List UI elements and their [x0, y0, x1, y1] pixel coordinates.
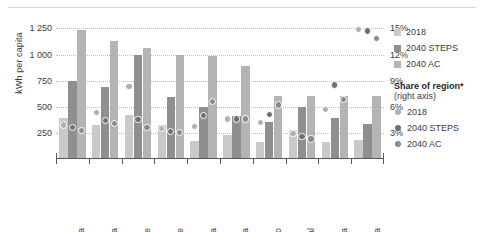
legend-dot-icon	[395, 109, 401, 115]
bar-group	[190, 18, 216, 159]
x-axis-category-label: Senegal	[306, 228, 316, 232]
data-point-dot	[125, 83, 132, 90]
data-point-dot	[102, 117, 109, 124]
legend-swatch-icon	[394, 45, 401, 52]
x-axis-category-label: Mozambique	[142, 228, 152, 232]
legend-item[interactable]: 2040 AC	[394, 136, 484, 152]
plot-area: 1 25015%1 00012%7509%5006%2503%	[56, 18, 384, 159]
data-point-dot	[233, 115, 240, 122]
bar	[232, 116, 240, 159]
legend-dot-icon	[395, 141, 401, 147]
x-axis-category-label: Angola	[109, 228, 119, 232]
legend-item[interactable]: 2018	[394, 24, 484, 40]
bar	[110, 41, 118, 159]
x-axis-category-label: Tanzania	[208, 228, 218, 232]
bar-group	[223, 18, 249, 159]
legend-item-label: 2040 STEPS	[407, 123, 459, 133]
bar	[92, 125, 100, 159]
legend-item-label: 2040 STEPS	[406, 43, 458, 53]
bar	[331, 118, 339, 159]
y-axis-tick-left: 250	[6, 128, 52, 138]
legend-heading: Share of region*	[394, 81, 484, 91]
bar	[77, 30, 85, 160]
data-point-dot	[224, 115, 231, 122]
legend-dot-icon	[395, 125, 401, 131]
data-point-dot	[143, 124, 150, 131]
legend-bar-series: 20182040 STEPS2040 AC	[394, 24, 484, 72]
bar	[307, 96, 315, 159]
legend-item[interactable]: 2040 AC	[394, 56, 484, 72]
x-axis-category-label: Côte d'Ivoire	[175, 228, 185, 232]
data-point-dot	[257, 119, 264, 126]
bar	[241, 66, 249, 159]
bar	[322, 142, 330, 159]
data-point-dot	[78, 127, 85, 134]
chart-legend: 20182040 STEPS2040 AC Share of region* (…	[394, 24, 484, 152]
data-point-dot	[134, 116, 141, 123]
data-point-dot	[266, 111, 273, 118]
legend-item-label: 2018	[407, 107, 427, 117]
chart-figure: kWh per capita 1 25015%1 00012%7509%5006…	[0, 0, 484, 232]
y-axis-tick-left: 500	[6, 102, 52, 112]
data-point-dot	[355, 26, 362, 33]
legend-item[interactable]: 2040 STEPS	[394, 40, 484, 56]
legend-dot-series: 20182040 STEPS2040 AC	[394, 104, 484, 152]
legend-item[interactable]: 2018	[394, 104, 484, 120]
legend-subheading: (right axis)	[394, 91, 484, 101]
x-axis-labels: GhanaAngolaMozambiqueCôte d'IvoireTanzan…	[56, 164, 384, 230]
bar	[354, 140, 362, 159]
bar-group	[92, 18, 118, 159]
data-point-dot	[298, 133, 305, 140]
data-point-dot	[364, 27, 371, 34]
bar-group	[256, 18, 282, 159]
legend-item-label: 2018	[406, 27, 426, 37]
data-point-dot	[111, 120, 118, 127]
data-point-dot	[307, 135, 314, 142]
bar-group	[158, 18, 184, 159]
data-point-dot	[289, 130, 296, 137]
y-axis-tick-left: 750	[6, 76, 52, 86]
bar	[190, 141, 198, 159]
bar	[125, 115, 133, 159]
bar	[372, 96, 380, 159]
legend-item-label: 2040 AC	[407, 139, 442, 149]
y-axis-tick-left: 1 250	[6, 23, 52, 33]
bar	[223, 135, 231, 159]
data-point-dot	[242, 115, 249, 122]
bar	[134, 55, 142, 159]
legend-swatch-icon	[394, 61, 401, 68]
data-point-dot	[60, 121, 67, 128]
bar	[208, 56, 216, 159]
x-axis-category-label: DR Congo	[273, 228, 283, 232]
x-axis-category-label: Ethiopia	[339, 228, 349, 232]
data-point-dot	[331, 81, 338, 88]
bar	[265, 122, 273, 159]
bar	[68, 81, 76, 159]
x-axis-category-label: Nigeria	[372, 228, 382, 232]
bar	[256, 142, 264, 159]
bar	[340, 96, 348, 159]
bar-group	[59, 18, 85, 159]
y-axis-tick-left: 1 000	[6, 50, 52, 60]
legend-item[interactable]: 2040 STEPS	[394, 120, 484, 136]
bar	[176, 55, 184, 159]
bar	[363, 124, 371, 160]
x-axis-category-label: Kenya	[240, 228, 250, 232]
top-divider	[8, 7, 476, 8]
data-point-dot	[275, 101, 282, 108]
x-axis-category-label: Ghana	[76, 228, 86, 232]
bar	[143, 48, 151, 159]
legend-item-label: 2040 AC	[406, 59, 441, 69]
legend-swatch-icon	[394, 29, 401, 36]
